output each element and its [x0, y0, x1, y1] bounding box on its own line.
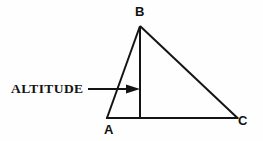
figure-canvas	[0, 0, 263, 141]
annotation-arrowhead	[126, 85, 140, 94]
vertex-label-c: C	[238, 114, 247, 127]
triangle-side-ab	[107, 26, 140, 118]
vertex-label-b: B	[135, 5, 144, 18]
altitude-annotation-label: ALTITUDE	[11, 82, 83, 96]
triangle-side-bc	[140, 26, 238, 118]
triangle-altitude-figure: ALTITUDE B A C	[0, 0, 263, 141]
vertex-label-a: A	[104, 123, 113, 136]
